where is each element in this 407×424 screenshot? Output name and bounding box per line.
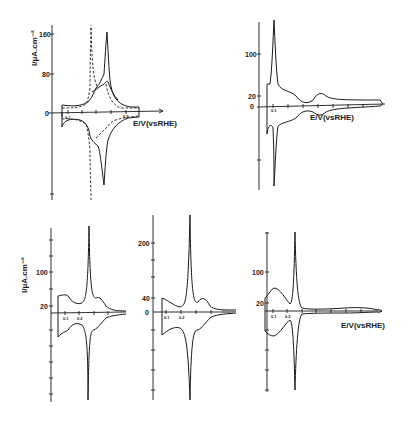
x-axis xyxy=(48,111,163,113)
x-tick-label: 0.1 xyxy=(271,108,277,113)
y-tick-label: 40 xyxy=(142,295,150,302)
y-tick-label: 20 xyxy=(40,303,48,310)
panel-top-right: 100 20 0 0.1 E/V(vsRHE) xyxy=(245,20,385,190)
x-tick-label: 0.1 xyxy=(63,316,69,321)
y-tick-label: 100 xyxy=(245,51,257,58)
series-anodic xyxy=(162,215,236,335)
y-tick-label: 20 xyxy=(256,300,264,307)
series-cathodic xyxy=(162,313,236,400)
y-tick-label: 160 xyxy=(39,31,51,38)
series-cathodic xyxy=(58,314,126,400)
x-tick-label: 0.2 xyxy=(77,316,83,321)
y-tick-label: 20 xyxy=(248,93,256,100)
cv-figure: 160 80 0 0.1 0.5 E/V(vsRHE) I/μA.cm⁻² 10… xyxy=(0,0,407,424)
series-solid-cathodic xyxy=(62,112,139,185)
x-tick-label: 0.1 xyxy=(271,314,277,319)
y-tick-label: 0 xyxy=(145,309,149,316)
x-axis xyxy=(51,312,126,313)
y-tick-label: 0 xyxy=(45,110,49,117)
y-axis-label: I/μA.cm⁻² xyxy=(20,257,29,293)
series-solid-anodic xyxy=(62,32,139,117)
y-tick-label: 80 xyxy=(42,71,50,78)
x-tick-label: 0.2 xyxy=(285,314,291,319)
y-tick-label: 0 xyxy=(250,103,254,110)
x-axis-label: E/V(vsRHE) xyxy=(133,119,177,128)
panel-bottom-left: 100 20 0.1 0.2 I/μA.cm⁻² xyxy=(20,226,126,402)
series-anodic xyxy=(265,232,378,331)
y-axis-label: I/μA.cm⁻² xyxy=(30,30,39,66)
y-tick-label: 100 xyxy=(36,269,48,276)
panel-top-left: 160 80 0 0.1 0.5 E/V(vsRHE) I/μA.cm⁻² xyxy=(30,25,177,200)
panel-bottom-right: 100 20 0.1 0.2 E/V(vsRHE) xyxy=(252,232,385,392)
overlap-band xyxy=(222,310,236,313)
x-tick-label: 0.2 xyxy=(179,315,185,320)
x-axis-label: E/V(vsRHE) xyxy=(341,321,385,330)
series-dashed-cathodic xyxy=(62,119,91,200)
panel-bottom-middle: 200 40 0 0.1 0.2 xyxy=(138,215,236,400)
y-tick-label: 200 xyxy=(138,240,150,247)
series-dashed-anodic xyxy=(62,25,91,108)
x-tick-label: 0.1 xyxy=(164,315,170,320)
y-tick-label: 100 xyxy=(252,269,264,276)
